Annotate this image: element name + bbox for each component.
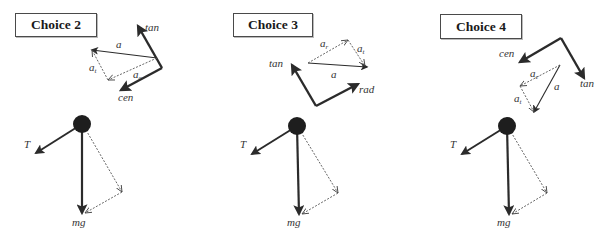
- choice-2-diagram: tancena⃗acatTmg: [24, 21, 162, 228]
- accel-label-c: ac: [133, 68, 143, 82]
- gravity-component-2: [302, 193, 338, 214]
- frame-label-tan: tan: [145, 21, 160, 33]
- frame-label-cen: cen: [499, 47, 515, 59]
- accel-vector-label: a⃗: [554, 80, 568, 92]
- pendulum-diagrams: tancena⃗acatTmgtanrada⃗aratTmgtancena⃗ac…: [0, 0, 611, 246]
- gravity-label: mg: [72, 216, 86, 228]
- frame-arrow-2: [316, 84, 358, 106]
- pendulum-bob: [288, 117, 306, 135]
- choice-4-diagram: tancena⃗acatTmg: [450, 38, 595, 228]
- tension-label: T: [240, 138, 247, 150]
- frame-label-tan: tan: [580, 77, 595, 89]
- tension-label: T: [24, 138, 31, 150]
- accel-component-t: [520, 86, 534, 112]
- gravity-component-2: [512, 193, 547, 214]
- gravity-arrow: [297, 126, 299, 214]
- frame-label-rad: rad: [359, 83, 375, 95]
- accel-label-t: at: [514, 92, 523, 106]
- frame-arrow-2: [520, 38, 561, 62]
- gravity-component-1: [511, 132, 547, 193]
- accel-label-r: ar: [320, 37, 329, 51]
- pendulum-bob: [498, 117, 516, 135]
- tension-label: T: [450, 138, 457, 150]
- accel-vector-label: a⃗: [331, 68, 345, 80]
- gravity-component-1: [301, 132, 338, 193]
- accel-label-t: at: [89, 61, 98, 75]
- gravity-arrow: [507, 126, 509, 214]
- frame-arrow-1: [561, 38, 584, 78]
- choice-3-diagram: tanrada⃗aratTmg: [240, 37, 375, 228]
- accel-label-c: ac: [530, 67, 540, 81]
- frame-label-cen: cen: [118, 91, 134, 103]
- gravity-component-2: [85, 192, 122, 213]
- gravity-label: mg: [287, 216, 301, 228]
- accel-vector: [92, 50, 157, 58]
- accel-label-t: at: [357, 42, 366, 56]
- gravity-component-1: [86, 130, 122, 192]
- gravity-label: mg: [497, 216, 511, 228]
- accel-vector: [308, 63, 367, 67]
- pendulum-bob: [73, 115, 91, 133]
- frame-arrow-1: [292, 65, 316, 106]
- frame-label-tan: tan: [269, 57, 284, 69]
- accel-vector-label: a⃗: [116, 38, 130, 50]
